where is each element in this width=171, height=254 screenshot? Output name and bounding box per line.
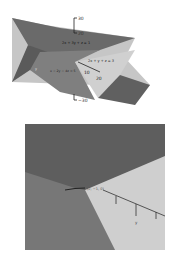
- x-tick-10: 10: [84, 70, 90, 75]
- z-tick-neg30: −30: [78, 98, 88, 103]
- y-axis-label: y: [35, 67, 37, 71]
- plot-canvas: 30 20 −30 10 20 2x + 3y + z = 1 2x + y +…: [0, 0, 171, 127]
- x-tick-20: 20: [96, 76, 102, 81]
- zoom-canvas: (2, −1, 0) y: [25, 124, 165, 250]
- three-planes-plot: 30 20 −30 10 20 2x + 3y + z = 1 2x + y +…: [0, 0, 171, 127]
- intersection-point-label: (2, −1, 0): [87, 187, 104, 191]
- plane1-label: 2x + 3y + z = 1: [62, 41, 90, 45]
- zoomed-intersection-plot: (2, −1, 0) y: [25, 124, 165, 250]
- z-tick-20: 20: [78, 31, 84, 36]
- plane3-label: x − 2y − 4z = 5: [50, 69, 76, 73]
- z-tick-30: 30: [78, 16, 84, 21]
- plane2-label: 2x + y + z = 3: [88, 59, 114, 63]
